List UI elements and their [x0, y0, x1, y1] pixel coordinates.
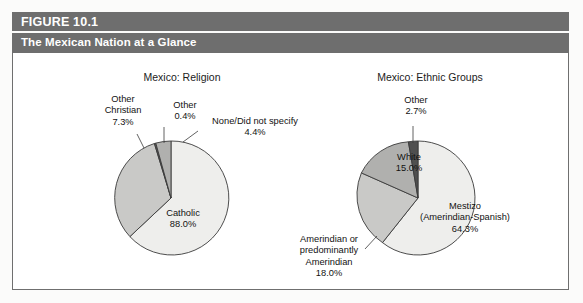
label-other-ethnic-line1: Other: [383, 95, 449, 106]
pie-religion: [115, 127, 229, 255]
label-white-line1: White: [381, 152, 437, 163]
label-other-christian-line1: Other: [88, 94, 158, 105]
label-amerindian-line3: Amerindian: [274, 257, 384, 268]
label-mestizo-line1: Mestizo: [395, 201, 535, 212]
label-none-did-not-specify: None/Did not specify 4.4%: [196, 116, 314, 139]
label-other-religion-line1: Other: [161, 100, 209, 111]
figure-number-band: FIGURE 10.1: [12, 12, 569, 33]
figure-title-label: The Mexican Nation at a Glance: [21, 36, 197, 48]
label-other-christian: Other Christian 7.3%: [88, 94, 158, 128]
leader-other-christian: [137, 134, 144, 148]
label-catholic-line1: Catholic: [133, 208, 233, 219]
label-amerindian-line2: predominantly: [274, 245, 384, 256]
figure-number-label: FIGURE 10.1: [21, 15, 98, 29]
label-other-ethnic-value: 2.7%: [383, 106, 449, 117]
label-amerindian-value: 18.0%: [274, 268, 384, 279]
label-other-christian-line2: Christian: [88, 105, 158, 116]
label-other-ethnic: Other 2.7%: [383, 95, 449, 118]
label-white-value: 15.0%: [381, 163, 437, 174]
charts-area: Mexico: Religion Mexico: Ethnic Groups: [13, 53, 568, 289]
figure-page: FIGURE 10.1 The Mexican Nation at a Glan…: [0, 0, 583, 303]
label-mestizo-value: 64.3%: [395, 224, 535, 235]
label-catholic: Catholic 88.0%: [133, 208, 233, 231]
label-none-line1: None/Did not specify: [196, 116, 314, 127]
label-other-christian-value: 7.3%: [88, 117, 158, 128]
label-none-value: 4.4%: [196, 127, 314, 138]
label-amerindian: Amerindian or predominantly Amerindian 1…: [274, 234, 384, 279]
label-white: White 15.0%: [381, 152, 437, 175]
label-catholic-value: 88.0%: [133, 219, 233, 230]
label-mestizo-line2: (Amerindian-Spanish): [395, 212, 535, 223]
figure-title-band: The Mexican Nation at a Glance: [12, 33, 569, 53]
label-amerindian-line1: Amerindian or: [274, 234, 384, 245]
label-mestizo: Mestizo (Amerindian-Spanish) 64.3%: [395, 201, 535, 235]
